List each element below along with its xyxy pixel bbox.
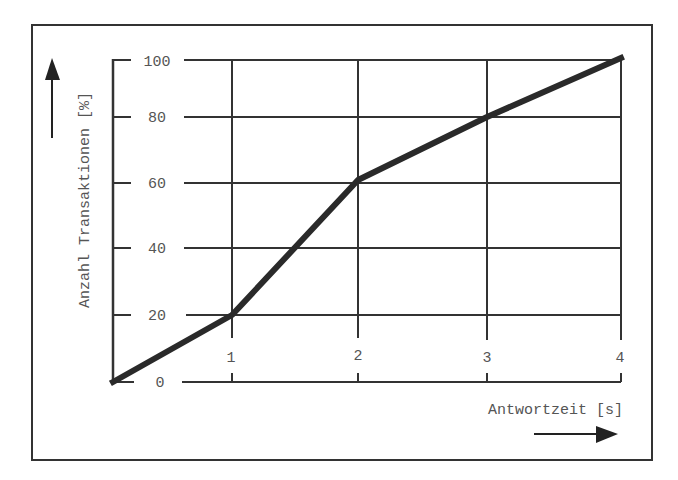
x-axis-title: Antwortzeit [s] — [488, 402, 623, 419]
x-tick-label: 4 — [615, 350, 624, 367]
chart-frame — [32, 25, 652, 460]
data-line — [113, 58, 621, 382]
x-tick-label: 1 — [226, 350, 235, 367]
horizontal-gridlines — [113, 60, 621, 382]
y-tick-label: 0 — [155, 375, 164, 392]
y-tick-label: 100 — [143, 54, 170, 71]
y-tick-label: 40 — [148, 241, 166, 258]
y-axis-title: Anzahl Transaktionen [%] — [77, 92, 94, 308]
arrow-up-icon — [45, 58, 60, 138]
y-tick-label: 60 — [148, 176, 166, 193]
y-tick-label: 80 — [148, 110, 166, 127]
chart: 100 80 60 40 20 0 1 2 3 4 Anzahl Transak… — [0, 0, 678, 480]
x-tick-label: 3 — [482, 350, 491, 367]
vertical-gridlines — [232, 57, 621, 382]
x-tick-label: 2 — [353, 348, 362, 365]
arrow-right-icon — [534, 426, 618, 443]
y-tick-label: 20 — [148, 308, 166, 325]
